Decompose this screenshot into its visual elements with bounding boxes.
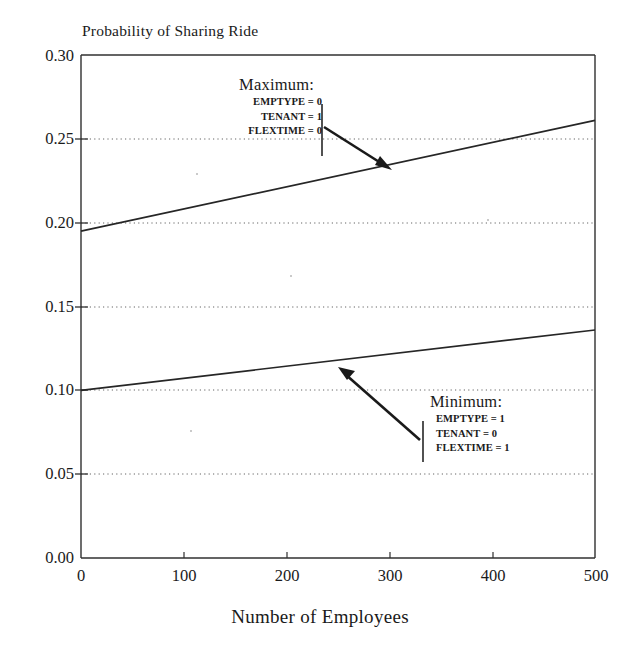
minimum-arrow-shaft bbox=[345, 374, 420, 440]
minimum-callout-leader bbox=[338, 367, 423, 462]
annotation-line: TENANT = 1 bbox=[182, 110, 322, 125]
scan-speck bbox=[190, 430, 192, 432]
scan-speck bbox=[290, 275, 292, 277]
annotation-line: TENANT = 0 bbox=[436, 427, 578, 442]
data-series bbox=[81, 120, 595, 390]
annotation-minimum-headline: Minimum: bbox=[428, 392, 578, 412]
scan-speck bbox=[196, 173, 198, 175]
annotation-maximum-headline: Maximum: bbox=[182, 75, 322, 95]
chart-figure: Probability of Sharing Ride 0.00 0.05 0.… bbox=[0, 0, 640, 665]
annotation-line: FLEXTIME = 0 bbox=[182, 124, 322, 139]
axis-frame bbox=[81, 55, 595, 558]
annotation-line: EMPTYPE = 1 bbox=[436, 412, 578, 427]
x-tick-marks bbox=[184, 552, 493, 558]
series-line-minimum bbox=[81, 330, 595, 390]
annotation-minimum-variables: EMPTYPE = 1 TENANT = 0 FLEXTIME = 1 bbox=[428, 412, 578, 456]
scan-speck bbox=[487, 219, 489, 221]
maximum-callout-leader bbox=[322, 104, 392, 170]
annotation-line: FLEXTIME = 1 bbox=[436, 441, 578, 456]
annotation-maximum: Maximum: EMPTYPE = 0 TENANT = 1 FLEXTIME… bbox=[182, 75, 322, 139]
annotation-minimum: Minimum: EMPTYPE = 1 TENANT = 0 FLEXTIME… bbox=[428, 392, 578, 456]
annotation-maximum-variables: EMPTYPE = 0 TENANT = 1 FLEXTIME = 0 bbox=[182, 95, 322, 139]
minimum-arrow-head bbox=[338, 367, 355, 380]
annotation-line: EMPTYPE = 0 bbox=[182, 95, 322, 110]
maximum-arrow-shaft bbox=[324, 127, 384, 165]
